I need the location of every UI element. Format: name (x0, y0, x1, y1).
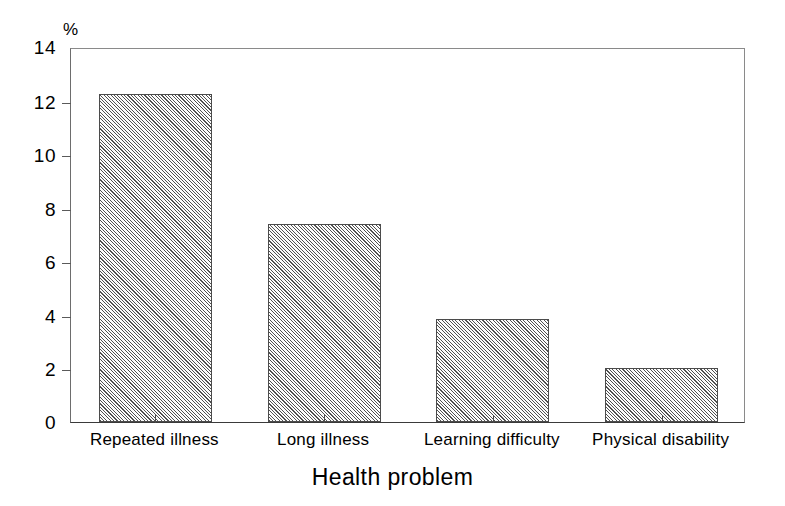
x-axis-category-label: Repeated illness (70, 430, 239, 450)
x-axis-category-label: Long illness (239, 430, 408, 450)
y-axis-tick-label: 2 (45, 360, 56, 380)
y-axis-unit-label: % (63, 21, 79, 39)
x-axis-tick (324, 415, 325, 423)
x-axis-category-label: Physical disability (576, 430, 745, 450)
y-axis-tick: 4 (62, 317, 71, 318)
y-axis-tick-label: 4 (45, 307, 56, 327)
x-axis-title: Health problem (0, 463, 785, 491)
y-axis-tick-label: 12 (34, 93, 56, 113)
bar (268, 224, 381, 422)
y-axis-tick: 8 (62, 210, 71, 211)
y-axis-tick-label: 14 (34, 38, 56, 58)
y-axis-tick-label: 8 (45, 200, 56, 220)
bar (436, 319, 549, 422)
y-axis-tick-label: 0 (45, 413, 56, 433)
x-axis-tick (662, 415, 663, 423)
bar-chart: % 02468101214 Health problem Repeated il… (0, 0, 785, 506)
y-axis-tick-label: 10 (34, 146, 56, 166)
y-axis-tick: 2 (62, 370, 71, 371)
x-axis-category-label: Learning difficulty (408, 430, 577, 450)
x-axis-tick (493, 415, 494, 423)
y-axis-tick: 10 (62, 156, 71, 157)
plot-area: 02468101214 (70, 48, 745, 423)
y-axis-tick: 12 (62, 103, 71, 104)
bar (99, 94, 212, 422)
x-axis-tick (155, 415, 156, 423)
y-axis-tick: 6 (62, 263, 71, 264)
bar (605, 368, 718, 422)
y-axis-tick-label: 6 (45, 253, 56, 273)
